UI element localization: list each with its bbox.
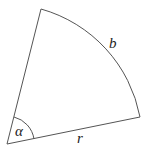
angle-label: α	[15, 123, 24, 139]
radius-left-edge	[7, 9, 41, 144]
arc-b	[41, 9, 140, 117]
sector-diagram: b r α	[0, 0, 158, 155]
arc-label: b	[109, 35, 117, 51]
radius-bottom-edge	[7, 117, 140, 144]
sector-figure: b r α	[0, 0, 158, 155]
radius-label: r	[77, 130, 83, 146]
